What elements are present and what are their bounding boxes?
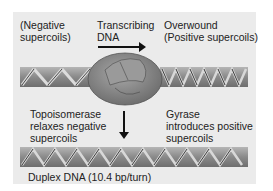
label-line: DNA	[97, 31, 154, 43]
label-line: Gyrase	[166, 108, 253, 120]
rna-polymerase	[88, 53, 162, 105]
label-gyrase: Gyrase introduces positive supercoils	[166, 108, 253, 144]
top-dna-negative-supercoils	[20, 67, 95, 87]
relaxation-arrow	[123, 111, 125, 133]
label-line: Topoisomerase	[30, 108, 106, 120]
duplex-dna	[20, 147, 248, 167]
top-dna-positive-supercoils	[160, 67, 248, 87]
label-overwound: Overwound (Positive supercoils)	[164, 19, 258, 43]
label-line: Transcribing	[97, 19, 154, 31]
label-duplex-dna: Duplex DNA (10.4 bp/turn)	[28, 171, 151, 183]
label-line: relaxes negative	[30, 120, 106, 132]
label-line: (Positive supercoils)	[164, 31, 258, 43]
label-line: Overwound	[164, 19, 258, 31]
label-transcribing-dna: Transcribing DNA	[97, 19, 154, 43]
label-negative-supercoils: (Negative supercoils)	[20, 19, 71, 43]
label-line: supercoils	[166, 132, 253, 144]
label-topoisomerase: Topoisomerase relaxes negative supercoil…	[30, 108, 106, 144]
transcription-direction-arrow	[98, 46, 140, 48]
label-line: supercoils)	[20, 31, 71, 43]
label-line: introduces positive	[166, 120, 253, 132]
label-line: (Negative	[20, 19, 71, 31]
label-line: supercoils	[30, 132, 106, 144]
